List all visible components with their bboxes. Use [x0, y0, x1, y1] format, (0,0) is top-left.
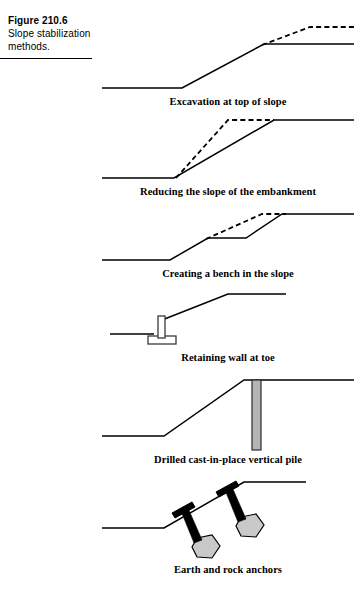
drilled-pile: [252, 380, 261, 450]
original-profile-line: [262, 27, 354, 45]
panel-caption: Excavation at top of slope: [96, 96, 360, 107]
panel-earth-and-rock-anchors: Earth and rock anchors: [96, 472, 360, 575]
panel-caption: Creating a bench in the slope: [96, 268, 360, 279]
caption-divider-rule: [0, 58, 92, 59]
panel-drilled-cast-in-place-vertical-pile: Drilled cast-in-place vertical pile: [96, 372, 360, 465]
diagram-excavation-at-top-of-slope: [96, 16, 360, 96]
figure-caption-block: Figure 210.6 Slope stabilization methods…: [8, 14, 108, 53]
panel-caption: Earth and rock anchors: [96, 564, 360, 575]
figure-title: Slope stabilization methods.: [8, 27, 108, 53]
panel-retaining-wall-at-toe: Retaining wall at toe: [96, 286, 360, 363]
retaining-wall-stem: [158, 316, 165, 338]
figure-number: Figure 210.6: [8, 14, 108, 27]
ground-profile-line: [102, 482, 306, 528]
ground-profile-line: [102, 214, 354, 260]
ground-profile-line: [102, 44, 354, 88]
panel-creating-a-bench-in-the-slope: Creating a bench in the slope: [96, 204, 360, 279]
ground-profile-line: [102, 120, 354, 178]
panel-caption: Reducing the slope of the embankment: [96, 186, 360, 197]
panel-excavation-at-top-of-slope: Excavation at top of slope: [96, 16, 360, 107]
diagram-creating-a-bench-in-the-slope: [96, 204, 360, 268]
diagram-retaining-wall-at-toe: [96, 286, 360, 352]
diagram-reducing-the-slope-of-the-embankment: [96, 108, 360, 186]
diagram-drilled-cast-in-place-vertical-pile: [96, 372, 360, 454]
diagram-earth-and-rock-anchors: [96, 472, 360, 564]
original-profile-line: [206, 214, 286, 239]
panel-caption: Drilled cast-in-place vertical pile: [96, 454, 360, 465]
panel-caption: Retaining wall at toe: [96, 352, 360, 363]
ground-profile-line: [102, 380, 354, 436]
figure-page: Figure 210.6 Slope stabilization methods…: [0, 0, 360, 591]
slope-profile-line: [162, 294, 286, 320]
panel-reducing-the-slope-of-the-embankment: Reducing the slope of the embankment: [96, 108, 360, 197]
